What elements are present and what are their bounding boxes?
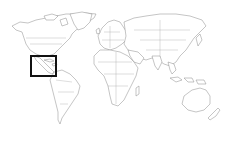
australia (182, 88, 210, 112)
europe (98, 20, 128, 50)
new-zealand (208, 108, 220, 120)
uk-ireland (96, 28, 100, 34)
southeast-asia (168, 62, 176, 74)
madagascar (136, 86, 139, 96)
india (152, 56, 162, 70)
indonesia (170, 77, 206, 84)
world-locator-map: Central America and the Caribbean (0, 0, 232, 144)
japan (196, 34, 202, 46)
central-america (34, 56, 54, 74)
south-america (50, 70, 80, 124)
world-map-svg (0, 0, 232, 144)
